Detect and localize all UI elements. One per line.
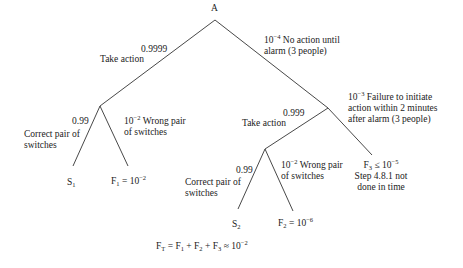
outcome-f1: F1 = 10−2 bbox=[111, 176, 146, 187]
label-take-action-2: Take action bbox=[242, 118, 286, 129]
prob-correct-2: 0.99 bbox=[236, 165, 253, 176]
label-wrong-1: 10−2 Wrong pairof switches bbox=[124, 116, 186, 138]
label-no-action: 10−4 No action untilalarm (3 people) bbox=[264, 35, 340, 57]
prob-take-action-1: 0.9999 bbox=[141, 44, 167, 55]
label-correct-1: Correct pair ofswitches bbox=[24, 129, 80, 151]
edge-a-no-action bbox=[215, 20, 328, 108]
outcome-s2: S2 bbox=[232, 219, 241, 230]
outcome-s1: S1 bbox=[67, 177, 76, 188]
label-correct-2: Correct pair ofswitches bbox=[185, 177, 241, 199]
prob-take-action-2: 0.999 bbox=[283, 108, 304, 119]
label-wrong-2: 10−2 Wrong pairof switches bbox=[281, 160, 343, 182]
label-take-action-1: Take action bbox=[100, 54, 144, 65]
total-failure-equation: FT = F1 + F2 + F3 ≈ 10−2 bbox=[156, 241, 248, 252]
prob-correct-1: 0.99 bbox=[72, 116, 89, 127]
outcome-f3: F3 ≤ 10−5Step 4.8.1 notdone in time bbox=[346, 160, 416, 193]
edge-correct-2 bbox=[238, 149, 265, 209]
outcome-f2: F2 = 10−6 bbox=[278, 218, 313, 229]
label-failure-initiate: 10−3 Failure to initiateaction within 2 … bbox=[348, 92, 437, 125]
root-node-label: A bbox=[211, 3, 218, 14]
